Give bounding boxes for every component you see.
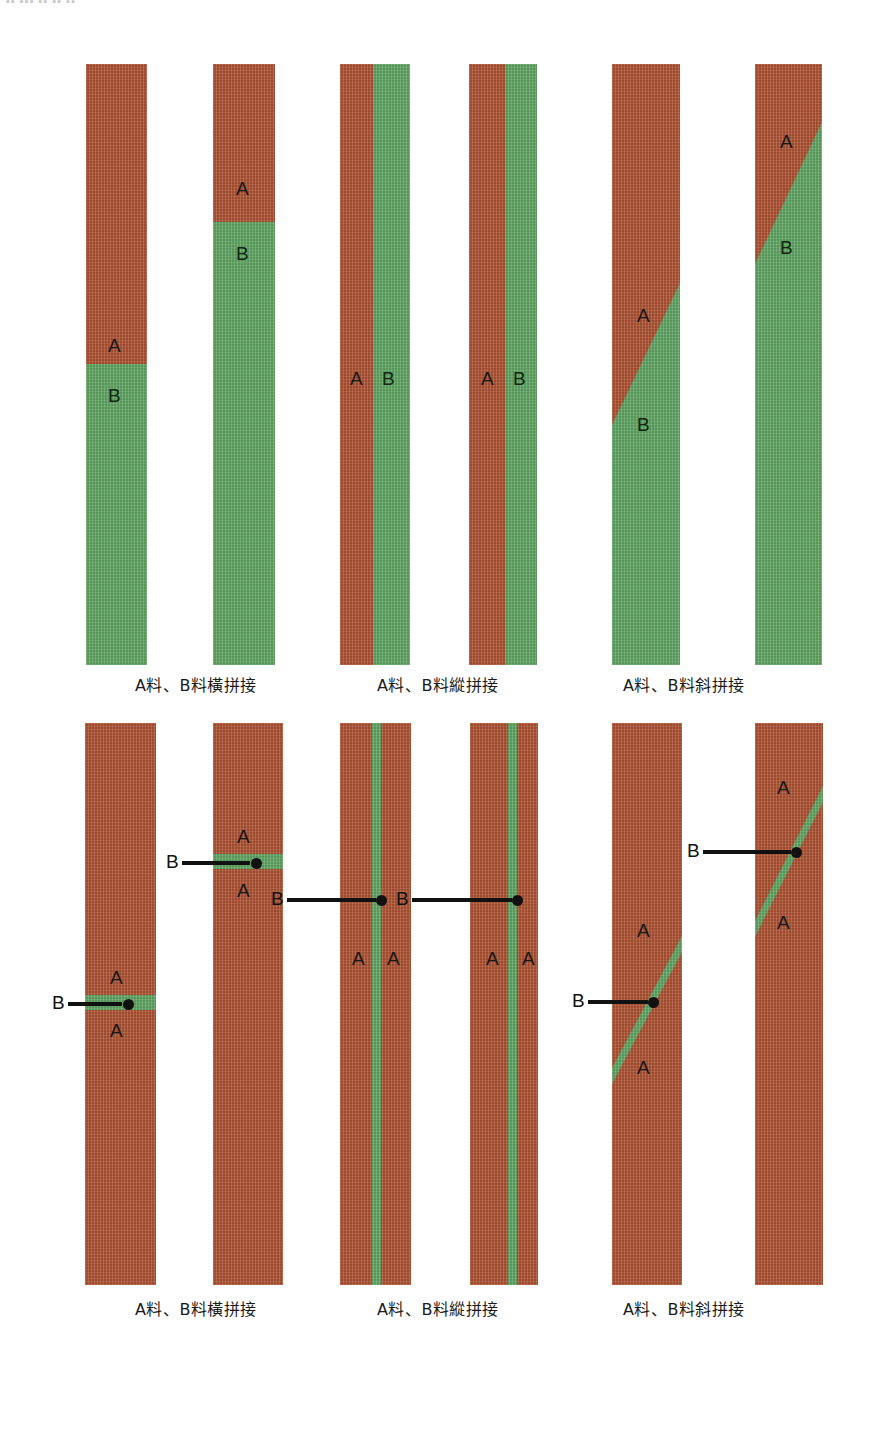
- fabric-segment-right: [505, 64, 537, 665]
- callout-label-b: B: [166, 852, 179, 871]
- fabric-label-b: B: [637, 415, 650, 434]
- fabric-label-b: B: [108, 386, 121, 405]
- fabric-label-a: A: [108, 336, 121, 355]
- callout-layer: B: [755, 723, 823, 1285]
- callout-layer: B: [470, 723, 538, 1285]
- fabric-label-a: A: [481, 369, 494, 388]
- fabric-label-b: B: [236, 244, 249, 263]
- fabric-strip-diagonal-split: AB: [755, 64, 822, 665]
- page-top-edge-text: ▪▪ ▪▪▪ ▪▪ ▪▪ ▪▪: [6, 0, 126, 6]
- leader-line: [182, 861, 250, 865]
- leader-dot-icon: [648, 997, 659, 1008]
- callout-label-b: B: [687, 841, 700, 860]
- fabric-label-b: B: [513, 369, 526, 388]
- fabric-segment-left: [469, 64, 505, 665]
- fabric-label-a: A: [637, 306, 650, 325]
- callout-layer: B: [340, 723, 411, 1285]
- fabric-strip-horizontal-split: AB: [213, 64, 275, 665]
- group-caption: A料、B料縱拼接: [328, 1296, 548, 1320]
- callout-layer: B: [213, 723, 283, 1285]
- fabric-label-a: A: [780, 132, 793, 151]
- fabric-segment-bottom: [86, 364, 147, 665]
- fabric-label-b: B: [382, 369, 395, 388]
- illustration-canvas: ▪▪ ▪▪▪ ▪▪ ▪▪ ▪▪ ABABA料、B料橫拼接ABABA料、B料縱拼接…: [0, 0, 869, 1435]
- leader-line: [412, 898, 512, 902]
- fabric-diagonal-shape: [612, 64, 680, 665]
- leader-dot-icon: [123, 999, 134, 1010]
- callout-layer: B: [85, 723, 156, 1285]
- leader-dot-icon: [376, 895, 387, 906]
- callout-layer: B: [612, 723, 682, 1285]
- fabric-segment-top: [86, 64, 147, 364]
- callout-label-b: B: [271, 889, 284, 908]
- leader-line: [287, 898, 376, 902]
- callout-label-b: B: [52, 993, 65, 1012]
- fabric-strip-horizontal-split: AB: [86, 64, 147, 665]
- leader-dot-icon: [251, 858, 262, 869]
- fabric-segment-left: [340, 64, 373, 665]
- fabric-segment-right: [373, 64, 410, 665]
- leader-dot-icon: [512, 895, 523, 906]
- fabric-strip-vertical-split: AB: [469, 64, 537, 665]
- group-caption: A料、B料橫拼接: [86, 672, 306, 696]
- fabric-segment-bottom: [213, 222, 275, 665]
- fabric-label-b: B: [780, 238, 793, 257]
- leader-line: [68, 1002, 122, 1006]
- group-caption: A料、B料斜拼接: [574, 1296, 794, 1320]
- fabric-diagonal-shape: [755, 64, 822, 665]
- leader-line: [703, 850, 791, 854]
- fabric-strip-vertical-split: AB: [340, 64, 410, 665]
- group-caption: A料、B料縱拼接: [328, 672, 548, 696]
- leader-line: [588, 1000, 648, 1004]
- fabric-label-a: A: [236, 179, 249, 198]
- leader-dot-icon: [791, 847, 802, 858]
- fabric-strip-diagonal-split: AB: [612, 64, 680, 665]
- fabric-label-a: A: [350, 369, 363, 388]
- callout-label-b: B: [396, 889, 409, 908]
- group-caption: A料、B料橫拼接: [86, 1296, 306, 1320]
- callout-label-b: B: [572, 991, 585, 1010]
- group-caption: A料、B料斜拼接: [574, 672, 794, 696]
